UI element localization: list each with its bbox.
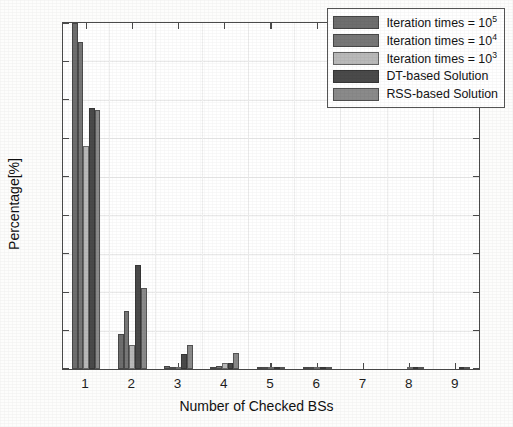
bar <box>95 110 101 370</box>
legend: Iteration times = 105Iteration times = 1… <box>327 8 505 108</box>
gridline-horizontal <box>63 292 479 293</box>
legend-item: RSS-based Solution <box>333 85 498 103</box>
figure-bar-chart: 0102030405060708090 Percentage[%] Number… <box>0 0 513 427</box>
bar <box>464 367 470 369</box>
legend-label: Iteration times = 105 <box>386 14 497 30</box>
y-axis-tick <box>63 215 69 216</box>
y-axis-tick <box>63 22 69 23</box>
y-axis-tick <box>473 368 479 369</box>
x-axis-tick <box>224 23 225 29</box>
gridline-horizontal <box>63 254 479 255</box>
y-axis-tick <box>63 292 69 293</box>
x-axis-tick-label: 1 <box>81 376 89 391</box>
bar <box>418 367 424 369</box>
x-axis-tick-label: 2 <box>128 376 136 391</box>
gridline-vertical <box>294 23 295 369</box>
y-axis-tick <box>63 99 69 100</box>
legend-label: RSS-based Solution <box>386 87 498 101</box>
bar <box>280 367 286 369</box>
legend-label: Iteration times = 103 <box>386 50 497 66</box>
y-axis-tick <box>473 292 479 293</box>
legend-item: DT-based Solution <box>333 67 498 85</box>
legend-swatch <box>333 16 379 29</box>
y-axis-tick <box>63 138 69 139</box>
x-axis-tick <box>86 23 87 29</box>
legend-item: Iteration times = 105 <box>333 13 498 31</box>
legend-label: DT-based Solution <box>386 69 488 83</box>
y-axis-tick <box>473 330 479 331</box>
x-axis-tick-label: 9 <box>451 376 459 391</box>
x-axis-tick-label: 8 <box>405 376 413 391</box>
legend-swatch <box>333 88 379 101</box>
legend-item: Iteration times = 103 <box>333 49 498 67</box>
x-axis-tick-label: 5 <box>266 376 274 391</box>
bar <box>141 288 147 370</box>
legend-swatch <box>333 52 379 65</box>
x-axis-tick-label: 4 <box>220 376 228 391</box>
y-axis-tick <box>473 253 479 254</box>
y-axis-tick <box>473 215 479 216</box>
y-axis-tick <box>473 176 479 177</box>
x-axis-tick-label: 6 <box>312 376 320 391</box>
gridline-horizontal <box>63 215 479 216</box>
x-axis-title: Number of Checked BSs <box>0 398 513 414</box>
bar <box>233 353 239 369</box>
y-axis-tick <box>63 176 69 177</box>
x-axis-tick-label: 3 <box>174 376 182 391</box>
gridline-vertical <box>155 23 156 369</box>
gridline-horizontal <box>63 138 479 139</box>
x-axis-tick <box>270 23 271 29</box>
legend-swatch <box>333 34 379 47</box>
y-axis-tick <box>63 253 69 254</box>
gridline-horizontal <box>63 177 479 178</box>
y-axis-tick <box>473 138 479 139</box>
x-axis-tick <box>363 363 364 369</box>
legend-swatch <box>333 70 379 83</box>
legend-item: Iteration times = 104 <box>333 31 498 49</box>
gridline-vertical <box>202 23 203 369</box>
y-axis-tick <box>63 368 69 369</box>
y-axis-tick <box>63 330 69 331</box>
x-axis-tick <box>132 23 133 29</box>
y-axis-tick <box>63 61 69 62</box>
y-axis-title: Percentage[%] <box>6 94 22 314</box>
gridline-vertical <box>248 23 249 369</box>
x-axis-tick <box>455 363 456 369</box>
legend-label: Iteration times = 104 <box>386 32 497 48</box>
x-axis-tick-label: 7 <box>359 376 367 391</box>
x-axis-tick <box>178 23 179 29</box>
gridline-vertical <box>109 23 110 369</box>
x-axis-tick <box>317 23 318 29</box>
bar <box>187 345 193 369</box>
bar <box>326 367 332 369</box>
